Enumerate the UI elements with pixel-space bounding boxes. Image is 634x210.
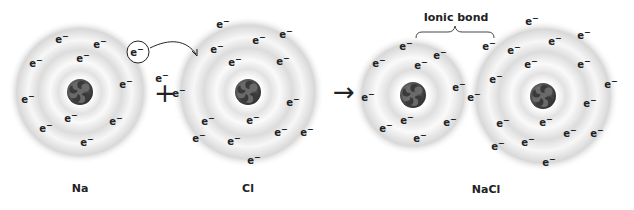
atom-na-ion: e−e−e−e−e−e−e−e−e−e−	[353, 35, 473, 155]
atom-cl: e−e−e−e−e−e−e−e−e−e−e−e−e−e−e−e−	[155, 16, 324, 168]
ionic-bond-diagram: e−e−e−e−e−e−e−e−e−e−e−e−e−e−e−e−e−e−e−e−…	[0, 0, 634, 210]
reaction-arrow: →	[333, 77, 355, 107]
ionic-bond-brace	[416, 26, 494, 38]
electron-label: e−	[300, 125, 314, 138]
plus-sign: +	[154, 78, 176, 108]
transferring-electron: e−	[127, 41, 149, 63]
ionic-bond-label: Ionic bond	[424, 11, 489, 24]
atom-cl-ion: e−e−e−e−e−e−e−e−e−e−e−e−e−e−e−e−e−e−	[467, 14, 619, 172]
label-na: Na	[72, 182, 89, 195]
atom-na: e−e−e−e−e−e−e−e−e−e−	[8, 20, 152, 164]
label-cl: Cl	[242, 182, 254, 195]
label-nacl: NaCl	[472, 183, 500, 196]
